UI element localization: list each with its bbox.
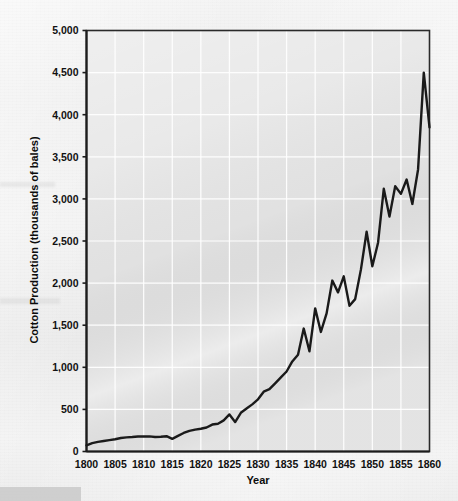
x-axis-tick-labels: 1800180518101815182018251830183518401845… [75, 458, 442, 470]
y-axis-tick-labels: 05001,0001,5002,0002,5003,0003,5004,0004… [52, 24, 86, 457]
x-tick-label: 1825 [218, 458, 242, 470]
x-tick-label: 1820 [189, 458, 213, 470]
y-tick-label: 3,000 [52, 193, 78, 205]
y-tick-label: 0 [73, 445, 79, 457]
x-tick-label: 1850 [361, 458, 385, 470]
x-tick-label: 1835 [275, 458, 299, 470]
x-tick-label: 1845 [332, 458, 356, 470]
x-tick-label: 1830 [246, 458, 270, 470]
x-tick-label: 1815 [161, 458, 185, 470]
x-tick-label: 1860 [418, 458, 442, 470]
chart-svg: 05001,0001,5002,0002,5003,0003,5004,0004… [0, 0, 458, 501]
y-tick-label: 2,500 [52, 235, 78, 247]
x-axis-title: Year [246, 474, 270, 486]
y-tick-label: 1,000 [52, 361, 78, 373]
y-tick-label: 4,000 [52, 109, 78, 121]
y-tick-label: 5,000 [52, 24, 78, 36]
x-tick-label: 1805 [103, 458, 127, 470]
chart-page: 05001,0001,5002,0002,5003,0003,5004,0004… [0, 0, 458, 501]
y-tick-label: 3,500 [52, 151, 78, 163]
x-tick-label: 1800 [75, 458, 99, 470]
y-tick-label: 4,500 [52, 66, 78, 78]
x-tick-label: 1855 [389, 458, 413, 470]
y-tick-label: 500 [61, 403, 79, 415]
y-axis-title: Cotton Production (thousands of bales) [28, 136, 40, 343]
x-tick-label: 1840 [303, 458, 327, 470]
cotton-production-chart: 05001,0001,5002,0002,5003,0003,5004,0004… [0, 0, 458, 501]
y-tick-label: 2,000 [52, 277, 78, 289]
x-tick-label: 1810 [132, 458, 156, 470]
y-tick-label: 1,500 [52, 319, 78, 331]
